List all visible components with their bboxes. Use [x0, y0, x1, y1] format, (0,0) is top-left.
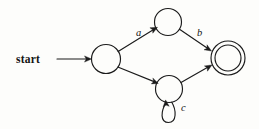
state-q3-inner [215, 45, 241, 71]
state-q3-outer[interactable] [211, 41, 245, 75]
transition-q2-q3 [181, 65, 212, 83]
transition-q0-q2 [118, 67, 159, 84]
start-label: start [16, 53, 40, 65]
state-q1[interactable] [155, 9, 182, 36]
state-q2[interactable] [156, 76, 183, 103]
edge-label-c: c [181, 102, 186, 113]
start-arrow [57, 56, 92, 62]
state-q0[interactable] [92, 45, 121, 74]
transition-q2-self-loop [162, 100, 175, 123]
automaton-svg: start a b c [0, 0, 259, 129]
automaton-diagram-canvas: start a b c [0, 0, 259, 129]
transition-q1-q3 [180, 29, 212, 51]
edge-label-b: b [197, 27, 202, 38]
edge-label-a: a [136, 27, 141, 38]
